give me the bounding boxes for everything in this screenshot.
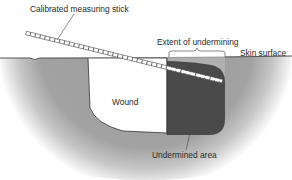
label-skin-surface: Skin surface: [240, 48, 286, 58]
label-undermined-area: Undermined area: [152, 150, 217, 160]
label-extent-of-undermining: Extent of undermining: [157, 37, 239, 47]
wound-undermining-diagram: Calibrated measuring stick Extent of und…: [0, 0, 292, 180]
extent-brace: [169, 48, 225, 57]
label-wound: Wound: [112, 97, 139, 107]
label-measuring-stick: Calibrated measuring stick: [30, 4, 129, 14]
stick-leader-line: [57, 14, 74, 40]
